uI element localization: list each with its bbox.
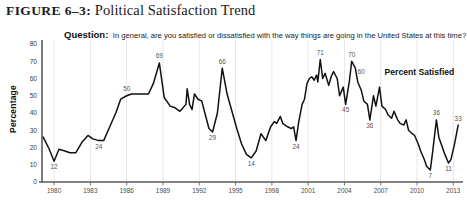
x-tick-label: 1980	[47, 187, 62, 194]
data-point-label: 36	[433, 109, 441, 116]
y-tick-label: 0	[33, 178, 37, 185]
x-tick-labels: 1980198319861989199219951998200120042007…	[47, 187, 461, 194]
data-point-label: 60	[358, 68, 366, 75]
x-tick-label: 2010	[410, 187, 425, 194]
x-tick-label: 1989	[156, 187, 171, 194]
data-point-label: 33	[455, 115, 463, 122]
data-point-label: 24	[95, 143, 103, 150]
x-tick-label: 2004	[337, 187, 352, 194]
figure-panel: FIGURE 6–3: Political Satisfaction Trend…	[0, 0, 467, 213]
data-point-label: 36	[366, 122, 374, 129]
data-point-label: 71	[317, 49, 325, 56]
x-tick-label: 1998	[265, 187, 280, 194]
y-tick-label: 60	[30, 75, 38, 82]
data-point-label: 24	[292, 143, 300, 150]
data-point-label: 70	[348, 51, 356, 58]
y-tick-label: 50	[30, 92, 38, 99]
data-point-label: 14	[248, 160, 256, 167]
data-point-label: 45	[342, 106, 350, 113]
data-point-label: 69	[156, 52, 164, 59]
x-tick-label: 2007	[374, 187, 389, 194]
data-point-label: 12	[51, 163, 59, 170]
x-tick-label: 1983	[83, 187, 98, 194]
line-chart: 01020304050607080 1980198319861989199219…	[0, 0, 467, 213]
y-tick-label: 20	[30, 144, 38, 151]
y-tick-label: 70	[30, 58, 38, 65]
y-tick-label: 10	[30, 161, 38, 168]
x-tick-label: 1986	[120, 187, 135, 194]
series-annotation: Percent Satisfied	[385, 67, 455, 77]
x-tick-label: 1995	[228, 187, 243, 194]
x-tick-label: 1992	[192, 187, 207, 194]
data-point-label: 50	[123, 85, 131, 92]
y-tick-label: 30	[30, 127, 38, 134]
y-tick-label: 40	[30, 109, 38, 116]
y-tick-labels: 01020304050607080	[30, 40, 38, 185]
data-point-label: 29	[209, 134, 217, 141]
x-tick-label: 2001	[301, 187, 316, 194]
y-tick-label: 80	[30, 40, 38, 47]
series-annotations: Percent Satisfied	[385, 67, 455, 77]
data-point-label: 11	[445, 165, 452, 172]
data-point-label: 66	[219, 58, 227, 65]
x-tick-label: 2013	[446, 187, 461, 194]
data-point-label: 7	[429, 172, 433, 179]
